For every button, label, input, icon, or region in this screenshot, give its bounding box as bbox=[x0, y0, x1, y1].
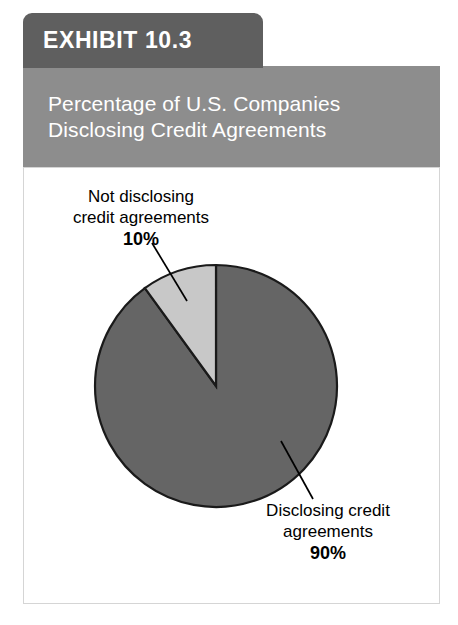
exhibit-title-banner: Percentage of U.S. Companies Disclosing … bbox=[23, 66, 440, 167]
callout-not-disclosing-line-1: Not disclosing bbox=[56, 186, 226, 207]
exhibit-figure: EXHIBIT 10.3 Percentage of U.S. Companie… bbox=[0, 0, 458, 625]
callout-disclosing-line-1: Disclosing credit bbox=[244, 500, 412, 521]
exhibit-title-line-1: Percentage of U.S. Companies bbox=[48, 91, 440, 117]
callout-disclosing-value: 90% bbox=[244, 543, 412, 564]
callout-not-disclosing-value: 10% bbox=[56, 229, 226, 250]
callout-disclosing-line-2: agreements bbox=[244, 521, 412, 542]
exhibit-title-line-2: Disclosing Credit Agreements bbox=[48, 117, 440, 143]
callout-not-disclosing: Not disclosing credit agreements 10% bbox=[56, 186, 226, 250]
callout-disclosing: Disclosing credit agreements 90% bbox=[244, 500, 412, 564]
callout-not-disclosing-line-2: credit agreements bbox=[56, 207, 226, 228]
exhibit-number-label: EXHIBIT 10.3 bbox=[23, 27, 192, 54]
exhibit-tab: EXHIBIT 10.3 bbox=[23, 13, 263, 68]
